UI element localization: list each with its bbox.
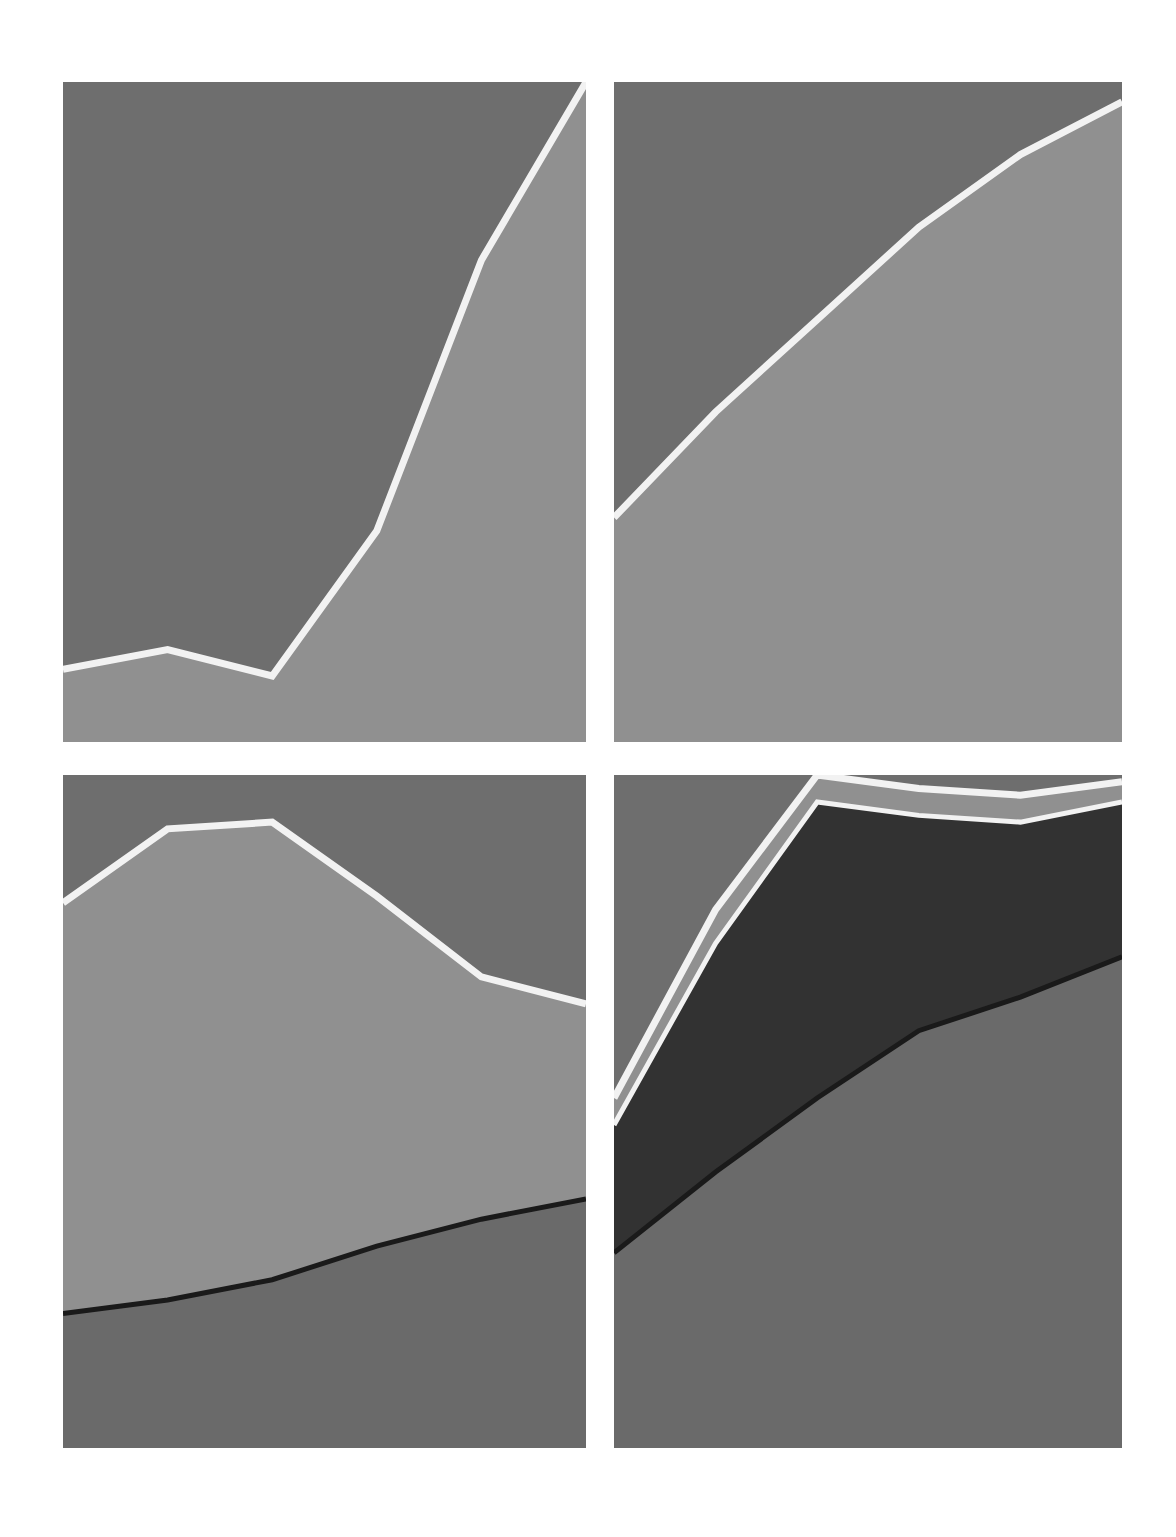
panel-top-left[interactable] (63, 82, 586, 742)
panel-bottom-right-plot (614, 775, 1122, 1448)
panel-bottom-right[interactable] (614, 775, 1122, 1448)
figure-canvas (0, 0, 1176, 1537)
panel-top-right[interactable] (614, 82, 1122, 742)
panel-top-left-plot (63, 82, 586, 742)
panel-top-right-plot (614, 82, 1122, 742)
panel-bottom-left[interactable] (63, 775, 586, 1448)
panel-bottom-left-plot (63, 775, 586, 1448)
